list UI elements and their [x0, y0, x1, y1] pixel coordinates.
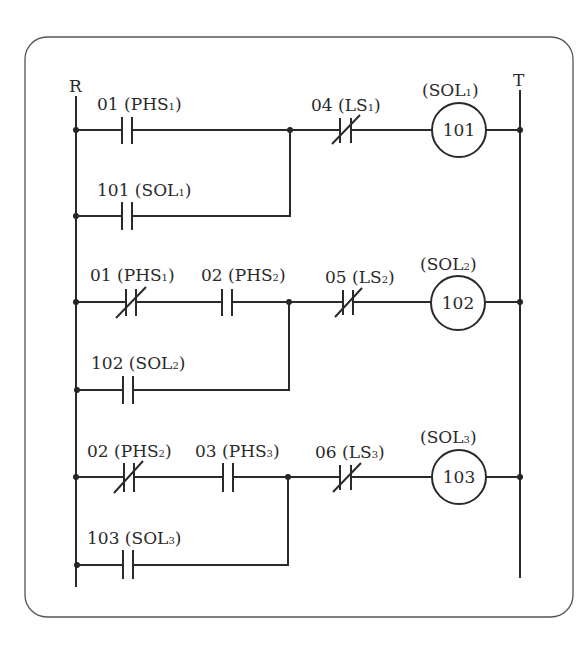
- coil-102-address: 102: [442, 293, 474, 313]
- left-rail-label: R: [69, 76, 83, 96]
- label-coil-sol3: (SOL3): [420, 427, 477, 447]
- label-04-ls1: 04 (LS1): [311, 95, 381, 115]
- rung-2: 102 01 (PHS1) 02 (PHS2) 102 (SOL2) 05 (L…: [73, 254, 523, 404]
- coil-102: 102: [431, 276, 485, 330]
- label-02-phs2-nc: 02 (PHS2): [87, 441, 172, 461]
- coil-101-address: 101: [443, 120, 475, 140]
- label-05-ls2: 05 (LS2): [325, 267, 395, 287]
- contact-no-03-phs3: [223, 463, 233, 492]
- label-06-ls3: 06 (LS3): [315, 442, 385, 462]
- label-02-phs2: 02 (PHS2): [201, 265, 286, 285]
- contact-no-02-phs2: [222, 289, 232, 316]
- label-coil-sol2: (SOL2): [420, 254, 477, 274]
- coil-103-address: 103: [443, 467, 475, 487]
- label-01-phs1-nc: 01 (PHS1): [90, 265, 175, 285]
- ladder-diagram: R T 101 01 (P: [0, 0, 586, 645]
- label-101-sol1: 101 (SOL1): [97, 180, 191, 200]
- coil-101: 101: [432, 103, 486, 157]
- label-coil-sol1: (SOL1): [422, 80, 479, 100]
- contact-no-103-sol3: [123, 550, 133, 579]
- contact-no-102-sol2: [123, 376, 133, 404]
- contact-no-01-phs1: [122, 117, 132, 144]
- coil-103: 103: [432, 450, 486, 504]
- rung-3: 103 02 (PHS2) 03 (PHS3) 103 (SOL3) 06 (L…: [73, 427, 523, 579]
- label-03-phs3: 03 (PHS3): [195, 441, 280, 461]
- right-rail-label: T: [513, 70, 525, 90]
- label-103-sol3: 103 (SOL3): [87, 528, 181, 548]
- rung-1: 101 01 (PHS1) 101 (SOL1) 04 (LS1) (SOL1): [73, 80, 523, 230]
- contact-no-101-sol1: [122, 202, 132, 230]
- label-01-phs1: 01 (PHS1): [97, 94, 182, 114]
- label-102-sol2: 102 (SOL2): [91, 353, 185, 373]
